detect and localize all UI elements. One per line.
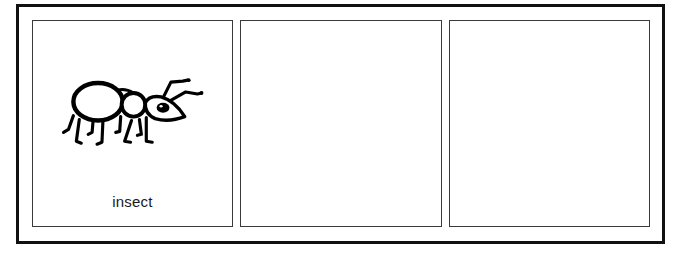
picture-card-label: insect (33, 193, 232, 210)
picture-card-2[interactable] (240, 20, 442, 227)
picture-card-3[interactable] (449, 20, 650, 227)
picture-card-1[interactable]: insect (32, 20, 233, 227)
